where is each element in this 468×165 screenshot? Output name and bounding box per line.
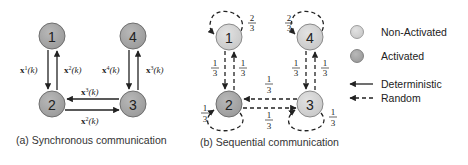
svg-text:3: 3 (306, 97, 314, 113)
legend-deterministic: Deterministic (350, 78, 442, 90)
svg-text:3: 3 (323, 68, 328, 78)
svg-text:Random: Random (381, 92, 421, 104)
node-a-3: 3 (120, 91, 146, 117)
panel-synchronous: x1(k) x2(k) x4(k) x3(k) x3(k) x2(k) 1 4 … (16, 23, 167, 146)
svg-text:3: 3 (267, 85, 272, 95)
legend-random: Random (350, 92, 421, 104)
caption-sequential: (b) Sequential communication (200, 136, 339, 148)
node-b-3: 3 (297, 91, 323, 117)
svg-text:2: 2 (48, 97, 56, 113)
legend-non-activated: Non-Activated (351, 26, 448, 39)
node-a-4: 4 (120, 23, 146, 49)
svg-text:Deterministic: Deterministic (381, 78, 442, 90)
svg-text:3: 3 (203, 114, 208, 124)
svg-text:3: 3 (294, 68, 299, 78)
svg-text:2: 2 (225, 97, 233, 113)
activated-node-icon (351, 50, 364, 63)
edge-label-x4: x4(k) (102, 65, 120, 75)
node-b-1: 1 (216, 24, 242, 50)
svg-text:3: 3 (250, 23, 255, 33)
svg-text:3: 3 (213, 68, 218, 78)
edge-label-x3-vertical: x3(k) (146, 65, 164, 75)
caption-synchronous: (a) Synchronous communication (16, 134, 167, 146)
legend-activated: Activated (351, 50, 425, 63)
svg-text:4: 4 (129, 29, 137, 45)
svg-text:1: 1 (225, 30, 233, 46)
svg-text:1: 1 (48, 29, 56, 45)
svg-text:Non-Activated: Non-Activated (381, 26, 447, 38)
svg-text:3: 3 (287, 23, 292, 33)
prob-label-1-to-2: 1 3 (211, 58, 219, 78)
node-b-4: 4 (297, 24, 323, 50)
prob-label-loop-1: 2 3 (248, 13, 256, 33)
svg-text:2: 2 (250, 13, 255, 23)
edge-label-x2-vertical: x2(k) (64, 65, 82, 75)
svg-text:3: 3 (331, 118, 336, 128)
svg-text:Activated: Activated (381, 50, 424, 62)
prob-label-3-to-2: 1 3 (265, 74, 273, 95)
svg-text:3: 3 (241, 68, 246, 78)
svg-text:3: 3 (267, 121, 272, 131)
svg-text:1: 1 (294, 58, 299, 68)
node-b-2: 2 (216, 91, 242, 117)
prob-label-loop-3: 1 3 (329, 107, 337, 128)
edge-label-x1: x1(k) (20, 65, 38, 75)
svg-text:1: 1 (213, 58, 218, 68)
svg-text:1: 1 (323, 58, 328, 68)
node-a-2: 2 (39, 91, 65, 117)
svg-text:1: 1 (267, 110, 272, 120)
non-activated-node-icon (351, 26, 364, 39)
svg-text:1: 1 (203, 103, 208, 113)
svg-text:3: 3 (129, 97, 137, 113)
edge-label-x2-horizontal: x2(k) (81, 116, 99, 126)
edge-label-x3-horizontal: x3(k) (81, 87, 99, 97)
prob-label-4-to-3: 1 3 (292, 58, 300, 78)
svg-text:2: 2 (287, 13, 292, 23)
svg-text:1: 1 (267, 74, 272, 84)
node-a-1: 1 (39, 23, 65, 49)
svg-text:1: 1 (241, 58, 246, 68)
panel-sequential: 2 3 2 3 1 3 1 3 1 3 1 3 1 (200, 11, 339, 148)
communication-diagram: x1(k) x2(k) x4(k) x3(k) x3(k) x2(k) 1 4 … (0, 0, 468, 165)
legend: Non-Activated Activated Deterministic Ra… (350, 26, 447, 105)
svg-text:1: 1 (331, 107, 336, 117)
prob-label-3-to-4: 1 3 (321, 58, 329, 78)
svg-text:4: 4 (306, 30, 314, 46)
prob-label-2-to-3: 1 3 (265, 110, 273, 131)
prob-label-2-to-1: 1 3 (239, 58, 247, 78)
